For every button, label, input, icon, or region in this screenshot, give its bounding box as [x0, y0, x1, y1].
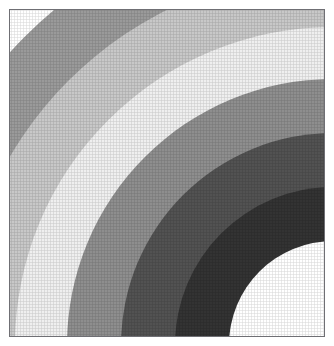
screenshot-root — [0, 0, 334, 346]
arc-band-stage — [10, 10, 324, 336]
figure-frame — [9, 9, 325, 337]
